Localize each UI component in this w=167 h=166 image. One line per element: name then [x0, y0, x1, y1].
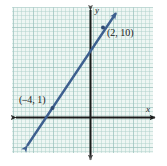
plotted-line: [27, 13, 116, 146]
point-label-b: (2, 10): [107, 27, 134, 39]
x-axis-label: x: [145, 104, 150, 114]
graph-figure: x y (–4, 1) (2, 10): [0, 0, 167, 166]
point-label-a: (–4, 1): [19, 94, 46, 106]
point-marker-a: [51, 106, 55, 110]
y-axis-label: y: [94, 5, 99, 15]
point-marker-b: [101, 26, 105, 30]
coordinate-plane: x y (–4, 1) (2, 10): [0, 0, 167, 166]
